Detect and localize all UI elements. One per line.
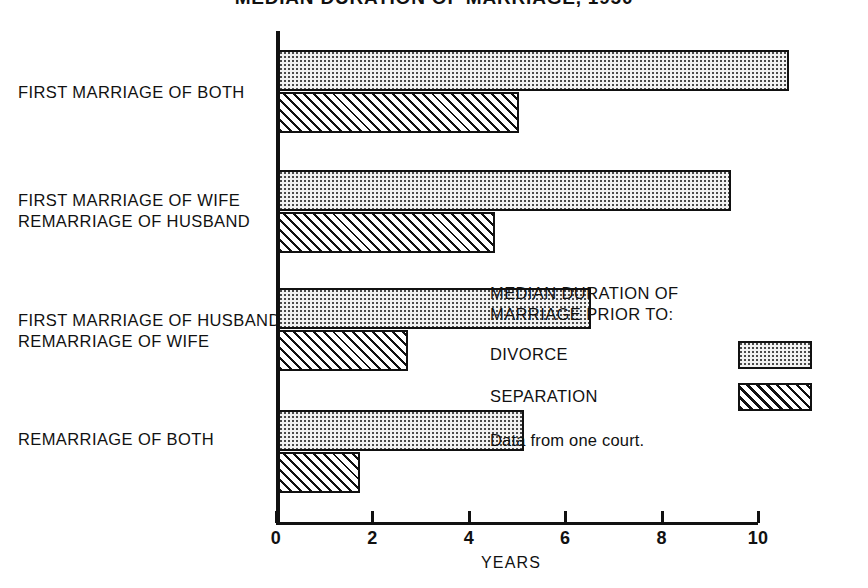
bar-chart: MEDIAN DURATION OF MARRIAGE, 1950 FIRST …: [0, 0, 868, 588]
bar-divorce-group-3: [278, 410, 524, 451]
x-tick-label-8: 8: [656, 528, 666, 549]
category-label-line: FIRST MARRIAGE OF WIFE: [18, 190, 286, 211]
legend-title: MEDIAN DURATION OF MARRIAGE PRIOR TO:: [490, 283, 860, 325]
category-label-line: REMARRIAGE OF HUSBAND: [18, 211, 286, 232]
x-tick-6: [564, 511, 567, 523]
x-tick-4: [468, 511, 471, 523]
x-tick-label-6: 6: [560, 528, 570, 549]
category-label-remarriage-of-both: REMARRIAGE OF BOTH: [18, 429, 286, 450]
bar-divorce-group-0: [278, 50, 789, 91]
chart-title: MEDIAN DURATION OF MARRIAGE, 1950: [0, 0, 868, 9]
legend-swatch-divorce: [738, 341, 812, 369]
legend-label-divorce: DIVORCE: [490, 345, 568, 364]
legend-title-line: MEDIAN DURATION OF: [490, 283, 860, 304]
legend-title-line: MARRIAGE PRIOR TO:: [490, 304, 860, 325]
category-label-line: FIRST MARRIAGE OF BOTH: [18, 82, 286, 103]
legend-note: Data from one court.: [490, 431, 644, 450]
x-tick-label-4: 4: [464, 528, 474, 549]
bar-separation-group-1: [278, 212, 495, 253]
bar-separation-group-0: [278, 92, 519, 133]
category-label-line: REMARRIAGE OF BOTH: [18, 429, 286, 450]
bar-separation-group-2: [278, 330, 408, 371]
x-axis-line: [276, 522, 758, 525]
legend-swatch-separation: [738, 383, 812, 411]
bar-divorce-group-1: [278, 170, 731, 211]
x-tick-label-0: 0: [271, 528, 281, 549]
category-label-line: REMARRIAGE OF WIFE: [18, 331, 286, 352]
bar-separation-group-3: [278, 452, 360, 493]
x-tick-label-2: 2: [367, 528, 377, 549]
x-tick-0: [275, 511, 278, 523]
plot-area: 0246810 YEARS: [276, 31, 868, 526]
x-tick-label-10: 10: [748, 528, 769, 549]
category-label-first-marriage-of-both: FIRST MARRIAGE OF BOTH: [18, 82, 286, 103]
x-tick-8: [661, 511, 664, 523]
x-axis-title: YEARS: [481, 554, 541, 572]
category-label-line: FIRST MARRIAGE OF HUSBAND: [18, 310, 286, 331]
legend-entry-divorce: DIVORCE: [490, 341, 850, 371]
legend-entry-separation: SEPARATION: [490, 383, 850, 413]
category-label-first-marriage-wife-remarriage-husband: FIRST MARRIAGE OF WIFE REMARRIAGE OF HUS…: [18, 190, 286, 232]
legend: MEDIAN DURATION OF MARRIAGE PRIOR TO: DI…: [490, 283, 860, 325]
x-tick-10: [757, 511, 760, 523]
x-tick-2: [371, 511, 374, 523]
category-label-first-marriage-husband-remarriage-wife: FIRST MARRIAGE OF HUSBAND REMARRIAGE OF …: [18, 310, 286, 352]
legend-label-separation: SEPARATION: [490, 387, 598, 406]
